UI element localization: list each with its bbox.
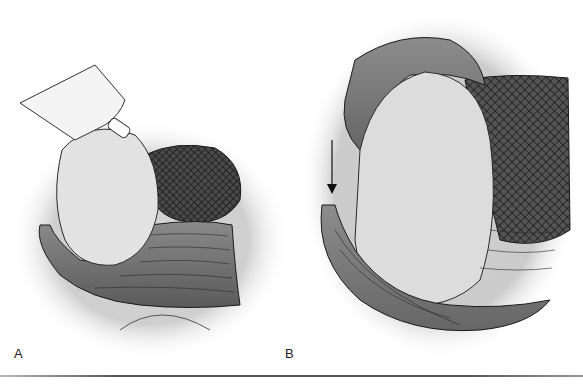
panel-label-b: B	[285, 346, 294, 361]
panel-b: B	[300, 0, 583, 365]
panel-a: A	[0, 0, 300, 365]
bottom-divider-rule	[0, 375, 583, 377]
panel-a-drawing	[0, 0, 300, 365]
panel-b-drawing	[300, 0, 583, 365]
panel-label-a: A	[14, 346, 23, 361]
medical-illustration-figure: A	[0, 0, 583, 370]
